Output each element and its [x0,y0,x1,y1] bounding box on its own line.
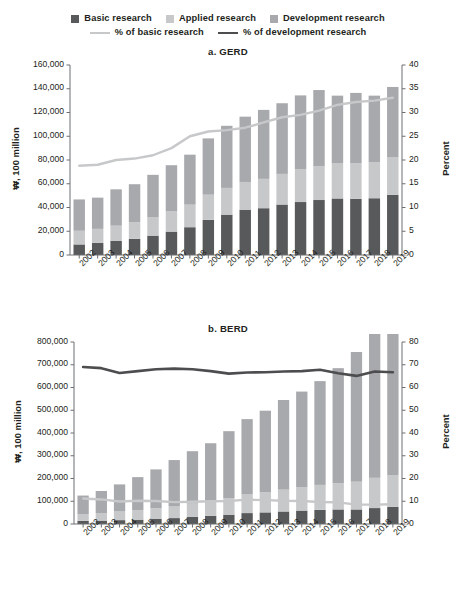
y2-axis-title: Percent [440,414,451,448]
bar-group-2008 [184,154,195,254]
legend-swatch-applied-research [166,15,174,23]
bar-segment-development-research-2015 [314,381,325,485]
y-tick-label: 40,000 [38,201,64,211]
bar-segment-applied-research-2008 [184,204,195,227]
bar-segment-development-research-2008 [184,154,195,204]
bar-segment-applied-research-2004 [114,511,125,520]
y2-tick-label: 40 [409,59,419,69]
bar-segment-basic-research-2014 [295,202,306,255]
bar-group-2015 [313,90,324,255]
bar-segment-applied-research-2019 [387,157,398,195]
bar-segment-applied-research-2012 [258,178,269,207]
bar-segment-applied-research-2019 [387,475,398,507]
bar-segment-development-research-2013 [278,400,289,490]
bar-segment-applied-research-2014 [296,487,307,510]
bar-group-2014 [296,391,307,523]
y2-tick-label: 15 [409,177,419,187]
bar-segment-development-research-2009 [205,443,216,501]
berd-svg [0,334,456,572]
bar-segment-development-research-2003 [92,197,103,228]
bar-segment-basic-research-2010 [221,214,232,254]
y-axis-title: ₩, 100 million [10,127,21,190]
bar-segment-applied-research-2015 [313,166,324,200]
y2-tick-label: 10 [409,495,419,505]
bar-group-2004 [114,484,125,524]
y-tick-label: 200,000 [37,472,68,482]
bar-group-2011 [240,116,251,254]
legend-development-research: Development research [270,14,385,23]
bar-segment-applied-research-2003 [92,228,103,242]
legend-row-bars: Basic research Applied research Developm… [0,14,456,23]
bar-segment-applied-research-2016 [333,483,344,509]
bar-segment-applied-research-2016 [332,163,343,198]
y-tick-label: 100,000 [33,130,64,140]
bar-segment-development-research-2003 [96,491,107,513]
y2-tick-label: 50 [409,404,419,414]
bar-segment-development-research-2004 [114,484,125,511]
bar-segment-development-research-2017 [351,352,362,482]
bar-group-2011 [241,419,252,524]
bar-segment-basic-research-2011 [240,210,251,255]
y2-tick-label: 10 [409,201,419,211]
legend-swatch-basic-research [71,15,79,23]
chart-legend: Basic research Applied research Developm… [0,0,456,38]
bar-group-2006 [147,174,158,254]
bar-group-2016 [332,95,343,254]
bar-segment-applied-research-2013 [276,173,287,204]
bar-group-2007 [169,460,180,524]
y-tick-label: 600,000 [37,381,68,391]
legend-label-pct-development-research: % of development research [243,28,366,37]
y2-tick-label: 70 [409,358,419,368]
legend-lineswatch-pct-development-research [218,32,238,34]
legend-pct-development-research: % of development research [218,28,366,37]
legend-label-pct-basic-research: % of basic research [115,28,204,37]
y2-tick-label: 30 [409,449,419,459]
y-tick-label: 500,000 [37,404,68,414]
bar-segment-development-research-2018 [369,95,380,162]
y-tick-label: 160,000 [33,59,64,69]
bar-group-2017 [351,352,362,524]
chart-berd-title: b. BERD [0,323,456,334]
y-tick-label: 0 [59,249,64,259]
bar-group-2010 [221,125,232,254]
bar-group-2018 [369,334,380,524]
bar-segment-applied-research-2007 [169,506,180,518]
bar-segment-development-research-2014 [296,391,307,487]
line-pct-development-research [83,367,393,376]
bar-segment-development-research-2015 [313,90,324,166]
chart-berd-plot-area: 0100,000200,000300,000400,000500,000600,… [0,334,456,572]
bar-segment-development-research-2012 [260,410,271,492]
bar-segment-basic-research-2016 [332,198,343,255]
y-tick-label: 140,000 [33,82,64,92]
bar-segment-applied-research-2009 [205,500,216,515]
bar-segment-applied-research-2011 [241,494,252,513]
bar-group-2009 [203,138,214,255]
line-pct-basic-research [79,97,393,165]
y-tick-label: 120,000 [33,106,64,116]
bar-group-2018 [369,95,380,254]
bar-segment-development-research-2005 [132,477,143,510]
bar-segment-applied-research-2018 [369,162,380,198]
bar-segment-applied-research-2015 [314,484,325,509]
bar-group-2013 [278,400,289,524]
bar-group-2016 [333,368,344,524]
chart-gerd-plot-area: 020,00040,00060,00080,000100,000120,0001… [0,57,456,307]
y2-tick-label: 25 [409,130,419,140]
bar-segment-development-research-2010 [221,125,232,187]
y2-tick-label: 35 [409,82,419,92]
bar-group-2007 [166,165,177,255]
bar-group-2003 [92,197,103,254]
y-tick-label: 80,000 [38,154,64,164]
bar-segment-applied-research-2002 [77,514,88,521]
bar-group-2002 [74,199,85,255]
bar-group-2010 [223,431,234,524]
y2-tick-label: 80 [409,336,419,346]
y-tick-label: 100,000 [37,495,68,505]
bar-segment-development-research-2008 [187,451,198,503]
bar-segment-development-research-2006 [147,174,158,216]
y2-tick-label: 30 [409,106,419,116]
y-axis-title: ₩, 100 million [12,400,23,463]
legend-swatch-development-research [270,15,278,23]
bar-segment-basic-research-2013 [276,204,287,254]
y-tick-label: 300,000 [37,449,68,459]
